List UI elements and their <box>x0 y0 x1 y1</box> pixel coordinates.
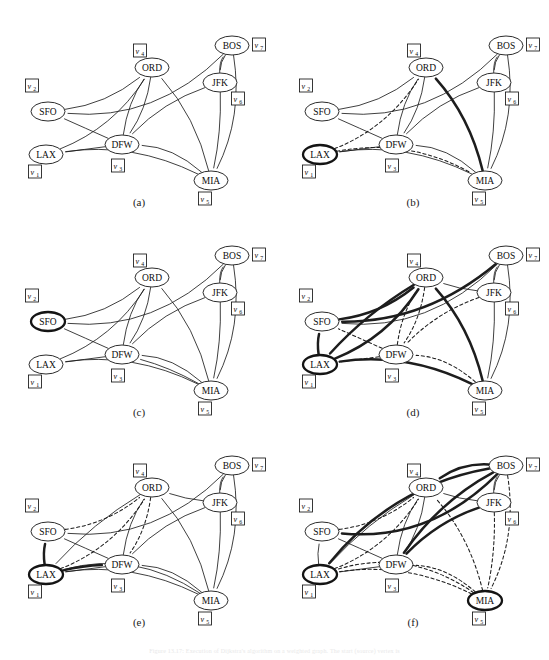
vertex-tag-v4: v4 <box>134 44 147 57</box>
graph-node-dfw[interactable]: DFW <box>105 345 139 364</box>
graph-node-sfo[interactable]: SFO <box>31 102 65 121</box>
edge-path <box>440 464 489 478</box>
graph-node-bos[interactable]: BOS <box>489 456 523 475</box>
vertex-tag-letter: v <box>529 461 533 470</box>
node-label: ORD <box>416 273 436 283</box>
graph-panel-a: SFOv2LAXv1DFWv3ORDv4MIAv5JFKv6BOSv7 <box>2 4 276 219</box>
graph-node-jfk[interactable]: JFK <box>477 493 511 512</box>
graph-node-jfk[interactable]: JFK <box>477 283 511 302</box>
graph-node-mia[interactable]: MIA <box>468 381 502 400</box>
graph-canvas-c: SFOv2LAXv1DFWv3ORDv4MIAv5JFKv6BOSv7 <box>2 214 276 429</box>
node-label: JFK <box>486 288 502 298</box>
graph-node-bos[interactable]: BOS <box>215 456 249 475</box>
vertex-tag-letter: v <box>388 372 392 381</box>
graph-node-lax[interactable]: LAX <box>29 355 63 374</box>
edge-jfk-to-ord <box>170 494 203 501</box>
node-label: MIA <box>202 596 221 606</box>
vertex-tag-subscript: 3 <box>393 586 396 592</box>
vertex-tag-subscript: 7 <box>260 255 263 261</box>
graph-node-dfw[interactable]: DFW <box>379 345 413 364</box>
vertex-tag-letter: v <box>388 582 392 591</box>
panel-caption-b: (b) <box>276 196 549 208</box>
graph-node-dfw[interactable]: DFW <box>379 555 413 574</box>
graph-canvas-f: SFOv2LAXv1DFWv3ORDv4MIAv5JFKv6BOSv7 <box>276 424 549 639</box>
edge-dfw-to-sfo <box>64 329 108 349</box>
graph-node-sfo[interactable]: SFO <box>305 102 339 121</box>
graph-node-mia[interactable]: MIA <box>194 381 228 400</box>
vertex-tag-subscript: 4 <box>141 51 144 57</box>
edge-mia-to-ord <box>436 79 483 171</box>
graph-node-ord[interactable]: ORD <box>409 268 443 287</box>
edge-jfk-to-mia <box>214 513 221 588</box>
edge-mia-to-ord <box>436 289 483 381</box>
graph-node-dfw[interactable]: DFW <box>379 135 413 154</box>
edge-mia-to-lax <box>66 569 198 594</box>
vertex-tag-subscript: 4 <box>141 261 144 267</box>
node-label: SFO <box>313 317 331 327</box>
graph-node-mia[interactable]: MIA <box>194 591 228 610</box>
graph-node-jfk[interactable]: JFK <box>203 493 237 512</box>
graph-node-ord[interactable]: ORD <box>409 478 443 497</box>
graph-node-bos[interactable]: BOS <box>215 246 249 265</box>
graph-node-dfw[interactable]: DFW <box>105 555 139 574</box>
vertex-tag-subscript: 7 <box>534 45 537 51</box>
edge-path <box>142 355 201 382</box>
node-label: BOS <box>497 251 515 261</box>
vertex-tag-subscript: 4 <box>415 261 418 267</box>
graph-node-lax[interactable]: LAX <box>29 565 63 584</box>
graph-node-lax[interactable]: LAX <box>303 355 337 374</box>
graph-panel-d: SFOv2LAXv1DFWv3ORDv4MIAv5JFKv6BOSv7 <box>276 214 549 429</box>
node-label: ORD <box>142 63 162 73</box>
graph-node-mia[interactable]: MIA <box>194 171 228 190</box>
graph-node-ord[interactable]: ORD <box>135 478 169 497</box>
graph-node-lax[interactable]: LAX <box>29 145 63 164</box>
graph-node-sfo[interactable]: SFO <box>31 312 65 331</box>
graph-node-sfo[interactable]: SFO <box>305 312 339 331</box>
graph-panel-e: SFOv2LAXv1DFWv3ORDv4MIAv5JFKv6BOSv7 <box>2 424 276 639</box>
vertex-tag-v2: v2 <box>26 289 39 302</box>
vertex-tag-letter: v <box>255 461 259 470</box>
edge-lax-to-sfo <box>318 544 319 564</box>
vertex-tag-subscript: 2 <box>33 506 36 512</box>
graph-node-ord[interactable]: ORD <box>135 268 169 287</box>
graph-node-jfk[interactable]: JFK <box>203 73 237 92</box>
graph-node-mia[interactable]: MIA <box>468 591 502 610</box>
graph-node-bos[interactable]: BOS <box>215 36 249 55</box>
edge-lax-to-sfo <box>318 334 319 354</box>
graph-node-bos[interactable]: BOS <box>489 36 523 55</box>
vertex-tag-v1: v1 <box>29 165 42 178</box>
vertex-tag-letter: v <box>28 502 32 511</box>
node-label: SFO <box>39 107 57 117</box>
graph-node-jfk[interactable]: JFK <box>477 73 511 92</box>
edge-path <box>65 288 139 320</box>
vertex-tag-subscript: 1 <box>36 172 39 178</box>
graph-node-dfw[interactable]: DFW <box>105 135 139 154</box>
node-label: BOS <box>223 251 241 261</box>
graph-node-bos[interactable]: BOS <box>489 246 523 265</box>
graph-node-lax[interactable]: LAX <box>303 565 337 584</box>
vertex-tag-letter: v <box>388 162 392 171</box>
graph-node-lax[interactable]: LAX <box>303 145 337 164</box>
vertex-tag-letter: v <box>410 257 414 266</box>
vertex-tag-v6: v6 <box>506 92 519 105</box>
panel-caption-e: (e) <box>2 616 276 628</box>
edge-path <box>66 149 198 174</box>
edge-path <box>214 303 221 378</box>
edge-mia-to-dfw <box>142 145 201 172</box>
graph-node-jfk[interactable]: JFK <box>203 283 237 302</box>
edge-path <box>329 468 489 563</box>
node-label: LAX <box>310 150 330 160</box>
graph-node-ord[interactable]: ORD <box>409 58 443 77</box>
edge-bos-to-lax <box>329 468 489 563</box>
graph-node-ord[interactable]: ORD <box>135 58 169 77</box>
vertex-tag-letter: v <box>31 588 35 597</box>
edge-jfk-to-mia <box>214 93 221 168</box>
vertex-tag-letter: v <box>28 292 32 301</box>
graph-node-mia[interactable]: MIA <box>468 171 502 190</box>
graph-node-sfo[interactable]: SFO <box>31 522 65 541</box>
node-label: MIA <box>202 176 221 186</box>
vertex-tag-subscript: 2 <box>307 86 310 92</box>
graph-node-sfo[interactable]: SFO <box>305 522 339 541</box>
vertex-tag-v4: v4 <box>134 254 147 267</box>
vertex-tag-v7: v7 <box>527 38 540 51</box>
